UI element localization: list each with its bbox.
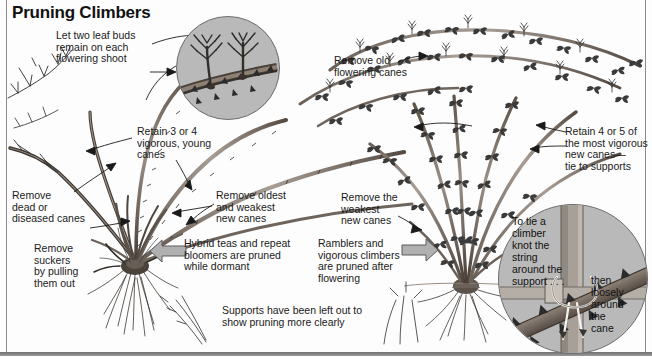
block-arrow-left-icon	[148, 237, 188, 265]
block-arrow-right-icon	[400, 236, 440, 264]
label-remove-dead: Remove dead or diseased canes	[12, 190, 85, 225]
label-ramblers: Ramblers and vigorous climbers are prune…	[318, 238, 400, 284]
label-remove-suckers: Remove suckers by pulling them out	[34, 243, 78, 289]
label-tie-climber: To tie a climber knot the string around …	[512, 215, 565, 287]
illustration-page: Pruning Climbers	[0, 0, 652, 359]
label-hybrid-teas: Hybrid teas and repeat bloomers are prun…	[184, 238, 290, 273]
frame-left-rule	[6, 0, 7, 352]
page-title: Pruning Climbers	[12, 3, 151, 23]
label-leaf-buds: Let two leaf buds remain on each floweri…	[56, 30, 135, 65]
label-retain-3-or-4: Retain 3 or 4 vigorous, young canes	[137, 126, 211, 161]
label-then-loosely: then loosely around the cane	[591, 274, 624, 334]
label-supports-note: Supports have been left out to show prun…	[222, 305, 362, 328]
label-remove-weakest: Remove the weakest new canes	[341, 192, 398, 227]
label-retain-4-or-5: Retain 4 or 5 of the most vigorous new c…	[565, 126, 648, 172]
magnified-cane-detail-icon	[176, 16, 280, 120]
label-remove-oldest: Remove oldest and weakest new canes	[216, 190, 286, 225]
label-remove-old-flowering: Remove old flowering canes	[334, 55, 407, 78]
